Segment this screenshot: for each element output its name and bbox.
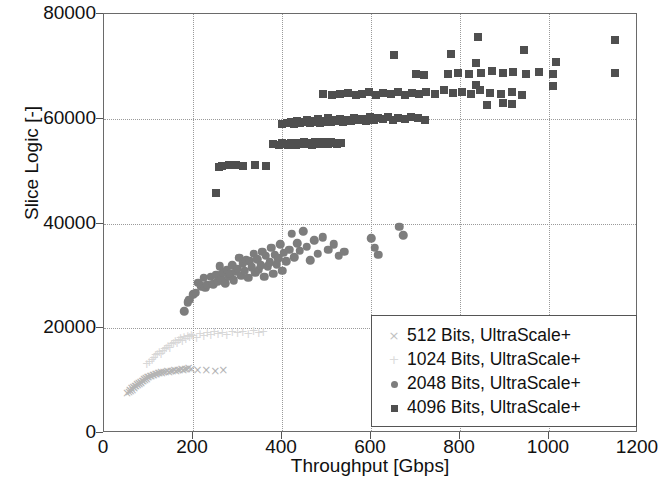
data-point [477,69,485,77]
data-point [390,51,398,59]
data-point: × [218,364,229,375]
legend-item-label: 512 Bits, UltraScale+ [407,325,571,346]
data-point [518,91,526,99]
data-point [499,69,507,77]
x-axis-tick-mark [459,432,460,439]
data-point [458,88,466,96]
data-point [319,233,328,242]
data-point [420,71,428,79]
cross-marker-icon: × [381,329,407,342]
data-point [278,266,287,275]
data-point [328,91,336,99]
data-point [508,100,516,108]
data-point [522,70,530,78]
data-point [422,88,430,96]
y-axis-tick-mark [96,13,103,14]
circle-marker-icon [381,377,407,390]
y-axis-tick-mark [96,118,103,119]
x-axis-tick-mark [548,432,549,439]
data-point [449,89,457,97]
data-point [367,234,376,243]
y-axis-tick-label: 80000 [10,2,96,24]
y-axis-tick-label: 40000 [10,212,96,234]
data-point [299,227,308,236]
y-axis-tick-mark [96,432,103,433]
data-point: + [258,326,269,337]
data-point [474,33,482,41]
legend-item[interactable]: +1024 Bits, UltraScale+ [372,347,636,371]
data-point [508,88,516,96]
square-marker-icon [381,401,407,414]
data-point [399,231,408,240]
data-point [431,90,439,98]
data-point [319,90,327,98]
data-point [344,89,352,97]
x-axis-tick-mark [192,432,193,439]
data-point [421,116,429,124]
gridline-vertical [282,14,283,431]
data-point [180,307,189,316]
data-point [336,90,344,98]
y-axis-tick-label: 0 [10,421,96,443]
data-point [552,58,560,66]
data-point [549,70,557,78]
data-point [212,189,220,197]
x-axis-tick-mark [281,432,282,439]
data-point [611,69,619,77]
y-axis-tick-mark [96,327,103,328]
data-point [276,240,285,249]
data-point [310,236,319,245]
data-point [454,69,462,77]
data-point [444,70,452,78]
data-point [611,36,619,44]
data-point [260,273,269,282]
data-point [472,81,480,89]
data-point [483,101,491,109]
data-point [269,270,278,279]
x-axis-tick-mark [370,432,371,439]
legend-item[interactable]: 4096 Bits, UltraScale+ [372,395,636,419]
data-point [447,50,455,58]
legend-item-label: 4096 Bits, UltraScale+ [407,397,581,418]
data-point [239,162,247,170]
data-point [467,90,475,98]
data-point [486,89,494,97]
data-point [488,67,496,75]
data-point [262,162,270,170]
legend-item-label: 1024 Bits, UltraScale+ [407,349,581,370]
data-point [499,99,507,107]
data-point [465,70,473,78]
data-point [340,248,349,257]
y-axis-tick-labels: 020000400006000080000 [8,0,96,483]
gridline-horizontal [104,224,636,225]
data-point [395,222,404,231]
data-point [329,240,338,249]
data-point [337,139,345,147]
y-axis-tick-mark [96,223,103,224]
legend-item-label: 2048 Bits, UltraScale+ [407,373,581,394]
data-point [374,251,383,260]
data-point [535,68,543,76]
data-point [313,250,322,259]
plus-marker-icon: + [381,353,407,366]
legend-item[interactable]: 2048 Bits, UltraScale+ [372,371,636,395]
data-point [288,230,297,239]
data-point [549,82,557,90]
y-axis-tick-label: 60000 [10,107,96,129]
legend: ×512 Bits, UltraScale++1024 Bits, UltraS… [371,315,637,427]
data-point [520,46,528,54]
data-point [497,90,505,98]
data-point [472,59,480,67]
x-axis-label: Throughput [Gbps] [103,455,637,477]
data-point [412,70,420,78]
data-point [440,86,448,94]
legend-item[interactable]: ×512 Bits, UltraScale+ [372,323,636,347]
data-point [251,161,259,169]
data-point [509,68,517,76]
y-axis-tick-label: 20000 [10,316,96,338]
